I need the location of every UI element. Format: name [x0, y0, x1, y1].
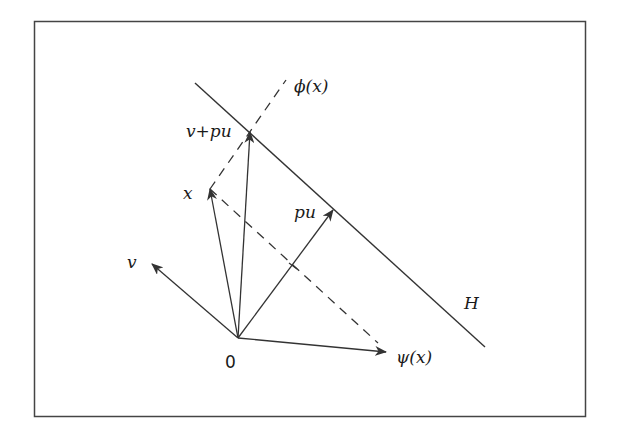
label-pu: pu	[294, 202, 316, 222]
diagram-canvas: ϕ(x) v+pu x pu v H ψ(x) 0	[0, 0, 617, 444]
label-psi-x: ψ(x)	[396, 347, 432, 367]
vector-psi-x-arrow	[238, 338, 386, 352]
label-v: v	[127, 252, 137, 272]
label-h: H	[463, 293, 480, 313]
vector-v-plus-pu-arrow	[238, 132, 250, 338]
label-phi-x: ϕ(x)	[294, 76, 328, 96]
vector-pu-arrow	[238, 210, 333, 338]
label-x: x	[183, 183, 193, 203]
vector-v-arrow	[152, 264, 238, 338]
label-v-plus-pu: v+pu	[186, 121, 232, 141]
label-origin: 0	[225, 352, 236, 372]
